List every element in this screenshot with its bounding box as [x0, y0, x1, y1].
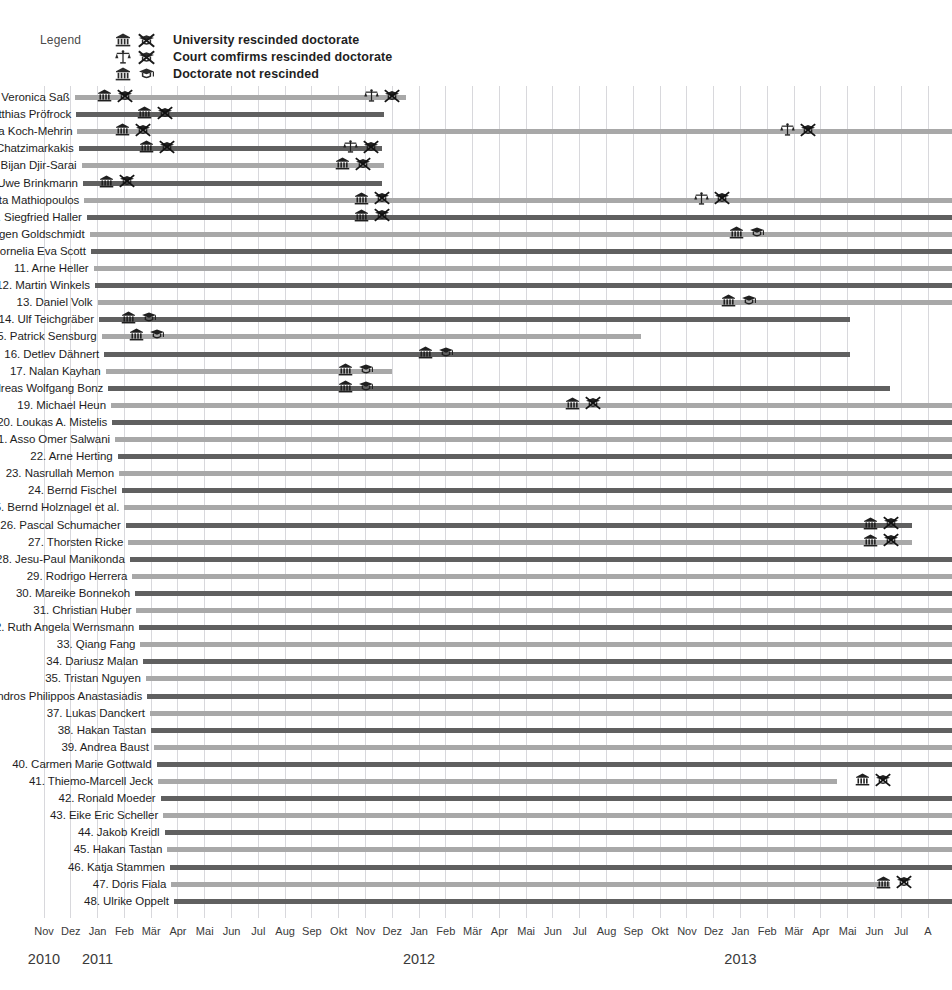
timeline-bar[interactable] — [151, 728, 952, 733]
outcome-marker[interactable] — [99, 172, 135, 191]
timeline-bar[interactable] — [87, 215, 952, 220]
timeline-bar[interactable] — [163, 813, 952, 818]
doctorate-icon — [438, 346, 454, 359]
doctorate-icon — [749, 226, 765, 239]
doctorate-icon — [741, 294, 757, 307]
rescinded-doctorate-icon — [585, 396, 601, 410]
timeline-bar[interactable] — [119, 471, 952, 476]
university-icon — [863, 534, 878, 547]
rescinded-doctorate-icon — [883, 516, 899, 530]
rescinded-doctorate-icon — [135, 123, 151, 137]
legend-icon-group — [115, 33, 167, 48]
university-icon — [335, 157, 350, 170]
timeline-bar[interactable] — [161, 796, 952, 801]
outcome-marker[interactable] — [729, 223, 765, 242]
outcome-marker[interactable] — [694, 189, 730, 208]
timeline-bar[interactable] — [77, 129, 952, 134]
axis-month-label: Jan — [410, 925, 428, 937]
timeline-bar[interactable] — [171, 882, 890, 887]
rescinded-doctorate-icon — [157, 106, 173, 120]
axis-year-label: 2013 — [724, 951, 756, 967]
timeline-bar[interactable] — [130, 557, 952, 562]
doctorate-icon — [358, 363, 374, 376]
timeline-row[interactable]: 48. Ulrike Oppelt — [0, 892, 939, 911]
outcome-marker[interactable] — [855, 770, 891, 789]
axis-month-label: Nov — [677, 925, 697, 937]
timeline-bar[interactable] — [136, 608, 952, 613]
outcome-marker[interactable] — [364, 86, 400, 105]
timeline-bar[interactable] — [157, 762, 952, 767]
axis-month-label: Apr — [169, 925, 186, 937]
outcome-marker[interactable] — [139, 137, 175, 156]
timeline-bar[interactable] — [146, 676, 952, 681]
timeline-bar[interactable] — [122, 488, 952, 493]
timeline-bar[interactable] — [90, 232, 952, 237]
legend: Legend University rescinded doctorate Co… — [0, 0, 939, 86]
timeline-bar[interactable] — [99, 317, 850, 322]
rescinded-doctorate-icon — [138, 50, 155, 65]
rescinded-doctorate-icon — [875, 773, 891, 787]
timeline-bar[interactable] — [165, 830, 952, 835]
outcome-marker[interactable] — [354, 206, 390, 225]
rescinded-doctorate-icon — [355, 157, 371, 171]
timeline-bar[interactable] — [139, 625, 952, 630]
outcome-marker[interactable] — [780, 120, 816, 139]
timeline-bar[interactable] — [84, 198, 952, 203]
timeline-bar[interactable] — [108, 386, 890, 391]
timeline-bar[interactable] — [124, 505, 952, 510]
outcome-marker[interactable] — [418, 343, 454, 362]
legend-title: Legend — [40, 33, 81, 47]
timeline-bar[interactable] — [95, 283, 952, 288]
timeline-plot-area: 1. Veronica Saß2. Matthias Pröfrock3. Si… — [0, 86, 939, 918]
university-icon — [99, 175, 114, 188]
outcome-marker[interactable] — [565, 394, 601, 413]
axis-month-label: Aug — [275, 925, 295, 937]
legend-icon-group — [115, 67, 167, 81]
timeline-bar[interactable] — [128, 540, 912, 545]
timeline-bar[interactable] — [154, 745, 952, 750]
timeline-bar[interactable] — [98, 300, 952, 305]
axis-month-label: Jun — [544, 925, 562, 937]
timeline-bar[interactable] — [91, 249, 952, 254]
university-icon — [855, 773, 870, 786]
timeline-bar[interactable] — [135, 591, 952, 596]
timeline-bar[interactable] — [112, 420, 952, 425]
court-scales-icon — [780, 123, 795, 136]
timeline-bar[interactable] — [143, 659, 952, 664]
timeline-bar[interactable] — [132, 574, 952, 579]
timeline-bar[interactable] — [158, 779, 837, 784]
timeline-bar[interactable] — [140, 642, 952, 647]
rescinded-doctorate-icon — [159, 140, 175, 154]
axis-month-label: Nov — [34, 925, 54, 937]
timeline-bar[interactable] — [150, 711, 952, 716]
legend-entry-label: University rescinded doctorate — [173, 33, 359, 47]
outcome-marker[interactable] — [876, 873, 912, 892]
timeline-bar[interactable] — [167, 847, 952, 852]
outcome-marker[interactable] — [721, 291, 757, 310]
timeline-bar[interactable] — [126, 523, 912, 528]
outcome-marker[interactable] — [338, 377, 374, 396]
axis-month-label: Sep — [302, 925, 322, 937]
timeline-bar[interactable] — [115, 437, 952, 442]
timeline-bar[interactable] — [104, 352, 850, 357]
outcome-marker[interactable] — [129, 325, 165, 344]
outcome-marker[interactable] — [863, 531, 899, 550]
university-icon — [121, 311, 136, 324]
timeline-bar[interactable] — [118, 454, 952, 459]
axis-month-label: Mai — [517, 925, 535, 937]
axis-month-label: Jul — [251, 925, 265, 937]
university-icon — [115, 123, 130, 136]
timeline-bar[interactable] — [147, 694, 952, 699]
outcome-marker[interactable] — [335, 154, 371, 173]
timeline-bar[interactable] — [111, 403, 952, 408]
rescinded-doctorate-icon — [138, 33, 155, 48]
timeline-bar[interactable] — [102, 334, 642, 339]
timeline-bar[interactable] — [174, 899, 952, 904]
university-icon — [565, 397, 580, 410]
legend-entry-label: Doctorate not rescinded — [173, 67, 319, 81]
timeline-bar[interactable] — [76, 112, 384, 117]
outcome-marker[interactable] — [97, 86, 133, 105]
timeline-bar[interactable] — [170, 865, 952, 870]
timeline-bar[interactable] — [79, 146, 382, 151]
timeline-bar[interactable] — [94, 266, 952, 271]
